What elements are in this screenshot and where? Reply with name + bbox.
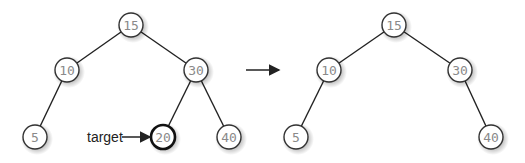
- tree-node-30-after: 30: [446, 56, 478, 88]
- tree-node-10-before: 10: [53, 56, 85, 88]
- tree-node-5-before: 5: [21, 123, 53, 155]
- node-value: 5: [292, 130, 300, 145]
- node-value: 5: [31, 130, 39, 145]
- node-value: 10: [321, 63, 337, 78]
- tree-node-10-after: 10: [315, 56, 347, 88]
- node-value: 30: [188, 63, 204, 78]
- tree-node-20-before: 20: [149, 123, 181, 155]
- tree-node-40-after: 40: [477, 123, 509, 155]
- tree-node-30-before: 30: [182, 56, 214, 88]
- node-value: 15: [386, 18, 402, 33]
- node-value: 10: [59, 63, 75, 78]
- bst-diagram: 15103052040151030540 target: [0, 0, 525, 163]
- tree-node-15-after: 15: [380, 11, 412, 43]
- tree-node-40-before: 40: [215, 123, 247, 155]
- node-value: 40: [483, 130, 499, 145]
- node-value: 15: [123, 18, 139, 33]
- tree-node-15-before: 15: [117, 11, 149, 43]
- tree-node-5-after: 5: [282, 123, 314, 155]
- node-value: 40: [221, 130, 237, 145]
- node-value: 30: [452, 63, 468, 78]
- tree-edges: [35, 25, 491, 137]
- target-label: target: [87, 129, 123, 145]
- node-value: 20: [155, 130, 171, 145]
